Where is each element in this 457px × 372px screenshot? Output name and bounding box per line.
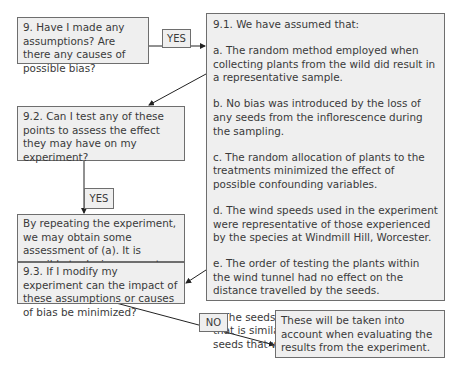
assumptions-title: 9.1. We have assumed that:	[213, 18, 438, 32]
assumptions-9-1-box: 9.1. We have assumed that: a. The random…	[206, 13, 445, 301]
question-9-3-box: 9.3. If I modify my experiment can the i…	[17, 262, 185, 304]
yes-label-2: YES	[84, 188, 114, 209]
assumption-a: a. The random method employed when colle…	[213, 44, 438, 85]
assumption-b: b. No bias was introduced by the loss of…	[213, 97, 438, 138]
assumption-e: e. The order of testing the plants withi…	[213, 257, 438, 298]
no-label-text: NO	[206, 317, 221, 328]
question-9-2-text: 9.2. Can I test any of these points to a…	[23, 110, 164, 163]
no-label: NO	[199, 313, 228, 332]
assumption-d: d. The wind speeds used in the experimen…	[213, 204, 438, 245]
question-9-box: 9. Have I made any assumptions? Are ther…	[17, 17, 149, 64]
yes-label-1: YES	[162, 29, 191, 48]
question-9-2-box: 9.2. Can I test any of these points to a…	[17, 106, 185, 161]
conclusion-text: These will be taken into account when ev…	[281, 314, 432, 353]
assumption-c: c. The random allocation of plants to th…	[213, 151, 438, 192]
answer-9-2-box: By repeating the experiment, we may obta…	[17, 214, 185, 262]
yes-label-1-text: YES	[167, 33, 186, 44]
conclusion-box: These will be taken into account when ev…	[275, 310, 445, 358]
yes-label-2-text: YES	[90, 193, 109, 204]
